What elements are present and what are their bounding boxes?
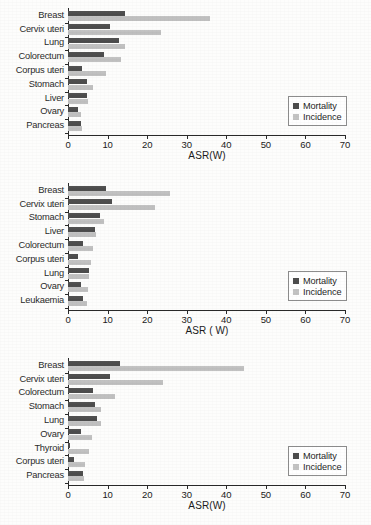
bar-mortality — [68, 443, 70, 448]
x-axis-tick-label: 40 — [213, 489, 239, 500]
x-axis-tick-label: 50 — [253, 314, 279, 325]
bar-incidence — [68, 421, 101, 426]
x-axis-title: ASR(W) — [68, 500, 346, 511]
bar-mortality — [68, 24, 110, 29]
x-axis-tick-label: 20 — [134, 489, 160, 500]
bar-incidence — [68, 205, 155, 210]
mortality-swatch — [293, 453, 299, 459]
x-axis-tick-label: 40 — [213, 139, 239, 150]
mortality-swatch — [293, 103, 299, 109]
y-axis-tick — [65, 64, 69, 65]
bar-mortality — [68, 213, 100, 218]
y-axis-tick — [65, 225, 69, 226]
x-axis-tick-label: 30 — [174, 489, 200, 500]
chart-1: 010203040506070BreastCervix uteriLungCol… — [0, 0, 371, 175]
category-label: Cervix uteri — [0, 24, 64, 34]
x-axis-tick-label: 50 — [253, 489, 279, 500]
category-label: Corpus uteri — [0, 456, 64, 466]
x-axis-tick-label: 30 — [174, 139, 200, 150]
legend-item-incidence: Incidence — [293, 111, 341, 122]
bar-incidence — [68, 301, 87, 306]
y-axis-tick — [65, 294, 69, 295]
legend-item-incidence: Incidence — [293, 461, 341, 472]
x-axis-tick-label: 60 — [292, 314, 318, 325]
legend-item-mortality: Mortality — [293, 100, 341, 111]
x-axis-line — [68, 310, 346, 311]
x-axis-tick-label: 0 — [55, 489, 81, 500]
legend-label: Incidence — [303, 462, 341, 472]
bar-incidence — [68, 260, 91, 265]
x-axis-tick-label: 10 — [95, 489, 121, 500]
legend-label: Mortality — [303, 451, 337, 461]
bar-incidence — [68, 99, 88, 104]
x-axis-tick-label: 0 — [55, 139, 81, 150]
category-label: Breast — [0, 10, 64, 20]
y-axis-tick — [65, 469, 69, 470]
category-label: Stomach — [0, 212, 64, 222]
legend-item-mortality: Mortality — [293, 275, 341, 286]
category-label: Lung — [0, 415, 64, 425]
category-label: Colorectum — [0, 240, 64, 250]
category-label: Stomach — [0, 401, 64, 411]
bar-incidence — [68, 462, 85, 467]
category-label: Lung — [0, 37, 64, 47]
y-axis-tick — [65, 119, 69, 120]
bar-incidence — [68, 126, 82, 131]
bar-incidence — [68, 112, 81, 117]
bar-mortality — [68, 388, 93, 393]
bar-incidence — [68, 274, 89, 279]
x-axis-line — [68, 135, 346, 136]
y-axis-tick — [65, 105, 69, 106]
legend: MortalityIncidence — [288, 271, 347, 301]
category-label: Liver — [0, 93, 64, 103]
category-label: Colorectum — [0, 387, 64, 397]
legend-label: Incidence — [303, 287, 341, 297]
x-axis-tick-label: 50 — [253, 139, 279, 150]
category-label: Liver — [0, 226, 64, 236]
category-label: Stomach — [0, 79, 64, 89]
bar-incidence — [68, 30, 161, 35]
bar-incidence — [68, 71, 106, 76]
x-axis-tick-label: 70 — [332, 489, 358, 500]
category-label: Ovary — [0, 429, 64, 439]
y-axis-tick — [65, 455, 69, 456]
y-axis-tick — [65, 483, 69, 484]
bar-mortality — [68, 254, 78, 259]
incidence-swatch — [293, 289, 299, 295]
bar-mortality — [68, 93, 87, 98]
bar-incidence — [68, 380, 163, 385]
x-axis-tick-label: 10 — [95, 314, 121, 325]
figure-page: 010203040506070BreastCervix uteriLungCol… — [0, 0, 371, 525]
bar-incidence — [68, 219, 104, 224]
bar-incidence — [68, 287, 88, 292]
legend-item-incidence: Incidence — [293, 286, 341, 297]
y-axis-tick — [65, 50, 69, 51]
category-label: Ovary — [0, 106, 64, 116]
x-axis-tick-label: 40 — [213, 314, 239, 325]
legend: MortalityIncidence — [288, 446, 347, 476]
bar-incidence — [68, 57, 121, 62]
x-axis-title: ASR(W) — [68, 150, 346, 161]
incidence-swatch — [293, 114, 299, 120]
category-label: Cervix uteri — [0, 199, 64, 209]
y-axis-tick — [65, 280, 69, 281]
incidence-swatch — [293, 464, 299, 470]
category-label: Corpus uteri — [0, 254, 64, 264]
bar-incidence — [68, 476, 84, 481]
category-label: Corpus uteri — [0, 65, 64, 75]
chart-2: 010203040506070BreastCervix uteriStomach… — [0, 175, 371, 350]
bar-mortality — [68, 199, 112, 204]
legend: MortalityIncidence — [288, 96, 347, 126]
legend-label: Mortality — [303, 276, 337, 286]
category-label: Leukaemia — [0, 295, 64, 305]
x-axis-tick-label: 60 — [292, 139, 318, 150]
legend-item-mortality: Mortality — [293, 450, 341, 461]
y-axis-tick — [65, 414, 69, 415]
x-axis-tick-label: 70 — [332, 314, 358, 325]
y-axis-tick — [65, 308, 69, 309]
x-axis-tick-label: 30 — [174, 314, 200, 325]
charts-container: 010203040506070BreastCervix uteriLungCol… — [0, 0, 371, 525]
category-label: Cervix uteri — [0, 374, 64, 384]
category-label: Pancreas — [0, 470, 64, 480]
y-axis-tick — [65, 133, 69, 134]
